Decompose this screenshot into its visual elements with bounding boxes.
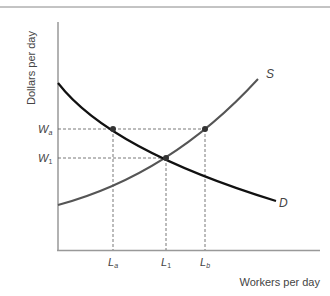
demand-label: D [279, 196, 288, 210]
demand-curve [58, 83, 276, 201]
y-axis-label: Dollars per day [25, 31, 37, 105]
point-b [202, 126, 208, 132]
labor-1-label: L1 [161, 256, 171, 269]
labor-market-diagram: S D Dollars per day Wa W1 La L1 Lb Worke… [0, 0, 330, 296]
guide-lines [58, 129, 205, 250]
wage-1-label: W1 [38, 152, 52, 165]
labor-b-label: Lb [200, 256, 210, 269]
point-a [110, 126, 116, 132]
equilibrium-point [163, 155, 169, 161]
wage-a-label: Wa [38, 123, 52, 136]
supply-label: S [266, 67, 274, 81]
labor-a-label: La [108, 256, 118, 269]
x-axis-label: Workers per day [240, 276, 321, 288]
